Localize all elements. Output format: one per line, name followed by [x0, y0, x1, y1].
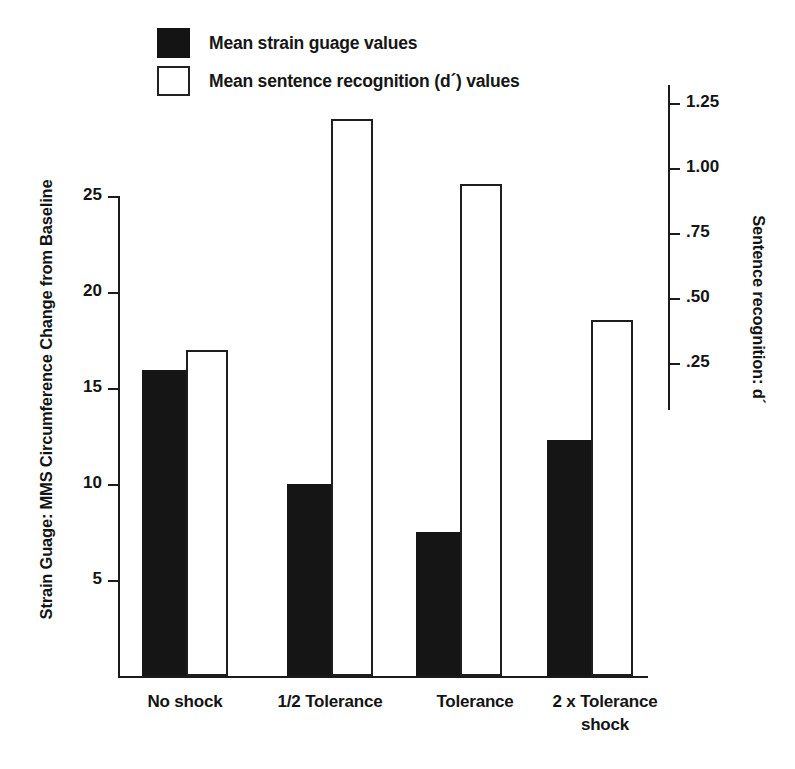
y-tick-left-25	[108, 196, 118, 198]
x-axis-baseline	[118, 676, 648, 678]
y-ticklabel-right-1-25: 1.25	[686, 92, 719, 112]
y-tick-right-0-25	[670, 363, 680, 365]
y-tick-right-0-50	[670, 298, 680, 300]
y-ticklabel-left-15: 15	[56, 377, 102, 397]
bar-sentence-no-shock	[186, 350, 228, 676]
bar-strain-half-tolerance	[287, 484, 331, 676]
y-tick-left-10	[108, 484, 118, 486]
bar-strain-double-tolerance	[547, 440, 591, 676]
bar-strain-tolerance	[416, 532, 460, 676]
chart-figure: Mean strain guage values Mean sentence r…	[0, 0, 795, 769]
y-ticklabel-left-5: 5	[56, 569, 102, 589]
y-tick-left-20	[108, 292, 118, 294]
bar-sentence-tolerance	[460, 184, 502, 676]
y-ticklabel-left-10: 10	[56, 473, 102, 493]
x-category-label-half-tolerance: 1/2 Tolerance	[245, 690, 415, 713]
bar-sentence-double-tolerance	[591, 320, 633, 676]
y-tick-left-15	[108, 388, 118, 390]
y-tick-left-5	[108, 580, 118, 582]
plot-area: 25 20 15 10 5 1.25 1.00 .75 .50 .25	[0, 0, 795, 769]
y-axis-right-line	[668, 85, 670, 410]
bar-strain-no-shock	[142, 370, 186, 676]
y-ticklabel-right-0-50: .50	[686, 287, 710, 307]
y-ticklabel-right-0-25: .25	[686, 352, 710, 372]
y-ticklabel-right-0-75: .75	[686, 222, 710, 242]
y-tick-right-1-25	[670, 103, 680, 105]
y-ticklabel-left-20: 20	[56, 281, 102, 301]
y-tick-right-1-00	[670, 168, 680, 170]
y-axis-left-line	[118, 196, 120, 678]
y-tick-right-0-75	[670, 233, 680, 235]
y-ticklabel-left-25: 25	[56, 185, 102, 205]
y-ticklabel-right-1-00: 1.00	[686, 157, 719, 177]
x-category-label-double-tolerance: 2 x Tolerance shock	[515, 690, 695, 736]
x-category-label-no-shock: No shock	[110, 690, 260, 713]
bar-sentence-half-tolerance	[331, 119, 373, 676]
